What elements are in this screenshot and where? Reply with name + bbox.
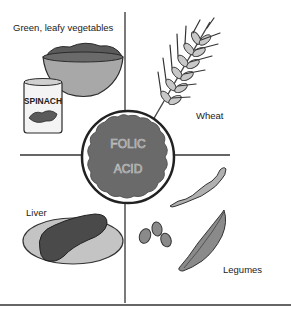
- quadrant-label-legumes: Legumes: [223, 264, 262, 275]
- quadrant-label-wheat: Wheat: [196, 110, 223, 121]
- liver-on-plate-icon: [23, 214, 123, 264]
- quadrant-label-liver: Liver: [26, 207, 47, 218]
- quadrant-label-green-leafy-vegetables: Green, leafy vegetables: [13, 22, 113, 33]
- center-label-line1: FOLIC: [110, 137, 146, 151]
- can-label: SPINACH: [24, 96, 62, 106]
- wheat-icon: [153, 18, 220, 120]
- spinach-can-icon: SPINACH: [24, 79, 62, 134]
- folic-acid-diagram: SPINACH: [0, 0, 291, 310]
- center-label-line2: ACID: [114, 162, 143, 176]
- folic-acid-center: FOLIC ACID: [82, 111, 174, 203]
